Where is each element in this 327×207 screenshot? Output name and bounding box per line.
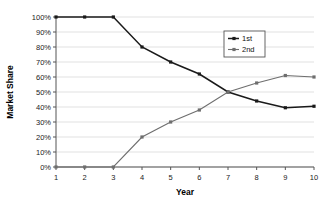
legend-label: 1st xyxy=(242,34,253,43)
legend-marker-swatch xyxy=(232,48,235,51)
data-point-marker xyxy=(140,135,143,138)
data-point-marker xyxy=(312,75,315,78)
x-axis-ticks: 12345678910 xyxy=(54,167,318,182)
x-tick-label: 10 xyxy=(310,173,318,182)
gridlines xyxy=(56,17,314,167)
data-point-marker xyxy=(83,165,86,168)
y-tick-label: 100% xyxy=(32,13,52,22)
x-tick-label: 1 xyxy=(54,173,58,182)
legend: 1st2nd xyxy=(224,31,265,57)
y-tick-label: 10% xyxy=(36,148,51,157)
data-point-marker xyxy=(54,165,57,168)
y-tick-label: 30% xyxy=(36,118,51,127)
y-tick-label: 40% xyxy=(36,103,51,112)
series-2nd xyxy=(54,74,315,169)
data-point-marker xyxy=(54,15,57,18)
chart-canvas: 0%10%20%30%40%50%60%70%80%90%100%1234567… xyxy=(0,0,327,207)
data-point-marker xyxy=(312,105,315,108)
data-point-marker xyxy=(198,108,201,111)
x-tick-label: 3 xyxy=(111,173,115,182)
y-tick-label: 60% xyxy=(36,73,51,82)
x-tick-label: 2 xyxy=(83,173,87,182)
data-point-marker xyxy=(112,165,115,168)
y-axis-title: Market Share xyxy=(5,65,15,119)
y-tick-label: 0% xyxy=(40,163,51,172)
line-chart: 0%10%20%30%40%50%60%70%80%90%100%1234567… xyxy=(0,0,327,207)
data-point-marker xyxy=(226,90,229,93)
y-axis-ticks: 0%10%20%30%40%50%60%70%80%90%100% xyxy=(32,13,56,172)
series-line xyxy=(56,76,314,168)
data-point-marker xyxy=(255,99,258,102)
data-point-marker xyxy=(284,106,287,109)
x-tick-label: 6 xyxy=(197,173,201,182)
data-point-marker xyxy=(284,74,287,77)
data-point-marker xyxy=(140,45,143,48)
y-tick-label: 20% xyxy=(36,133,51,142)
data-point-marker xyxy=(169,120,172,123)
data-point-marker xyxy=(255,81,258,84)
data-point-marker xyxy=(169,60,172,63)
data-point-marker xyxy=(198,72,201,75)
x-tick-label: 5 xyxy=(169,173,173,182)
x-tick-label: 8 xyxy=(255,173,259,182)
legend-marker-swatch xyxy=(232,37,235,40)
x-tick-label: 7 xyxy=(226,173,230,182)
data-point-marker xyxy=(112,15,115,18)
x-tick-label: 9 xyxy=(283,173,287,182)
y-tick-label: 80% xyxy=(36,43,51,52)
x-axis-title: Year xyxy=(176,187,195,197)
y-tick-label: 90% xyxy=(36,28,51,37)
legend-label: 2nd xyxy=(242,45,255,54)
x-tick-label: 4 xyxy=(140,173,144,182)
y-tick-label: 50% xyxy=(36,88,51,97)
data-point-marker xyxy=(83,15,86,18)
y-tick-label: 70% xyxy=(36,58,51,67)
